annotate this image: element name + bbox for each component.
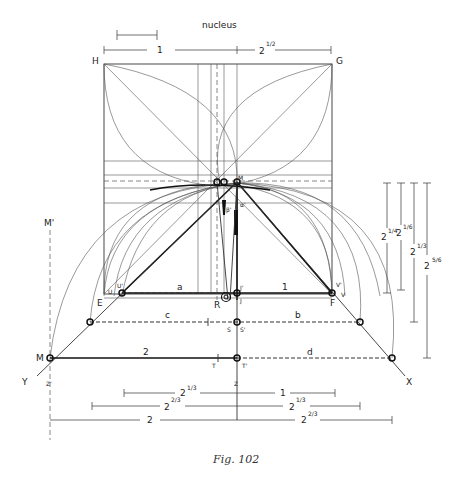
- segment-2-label: 2: [143, 347, 149, 357]
- label-M-left: M: [36, 353, 44, 363]
- label-T-prime: T': [241, 362, 248, 369]
- top-dimension: [104, 30, 331, 54]
- label-U: U: [108, 288, 112, 295]
- rdim-2-exp: 1/6: [403, 223, 413, 230]
- label-M-top: M: [238, 174, 243, 181]
- bdim-2-left-base: 2: [164, 402, 170, 412]
- bdim-3-right-base: 2: [301, 415, 307, 425]
- label-alpha-prime: α': [240, 201, 246, 208]
- rdim-4-exp: 5/6: [432, 256, 442, 263]
- segment-a-label: a: [177, 282, 183, 292]
- bottom-dimensions: [50, 389, 392, 424]
- dim-2-base: 2: [259, 46, 265, 56]
- line-Y: [37, 182, 237, 376]
- bdim-3-left-base: 2: [147, 415, 153, 425]
- label-beta-prime: β': [226, 206, 232, 214]
- square-frame: [104, 64, 332, 300]
- label-J: J: [239, 297, 242, 305]
- rdim-1-base: 2: [381, 232, 387, 242]
- label-S-prime: S': [240, 326, 246, 333]
- segment-d-label: d: [307, 347, 313, 357]
- segment-c-label: c: [165, 310, 170, 320]
- dim-1-label: 1: [157, 45, 163, 55]
- rdim-2-base: 2: [396, 228, 402, 238]
- nucleus-label: nucleus: [202, 20, 237, 30]
- construction-arcs: [50, 183, 394, 358]
- label-R: R: [214, 300, 220, 310]
- label-U-prime: U': [117, 282, 123, 289]
- rdim-3-base: 2: [410, 247, 416, 257]
- label-F: F: [330, 298, 335, 308]
- bdim-1-left-base: 2: [180, 388, 186, 398]
- label-T: T: [211, 362, 216, 369]
- rdim-3-exp: 1/3: [417, 242, 427, 249]
- label-V: V: [341, 291, 346, 298]
- geometric-construction-diagram: nucleus 1 2 1/2 H G: [0, 0, 459, 481]
- segment-1-label: 1: [282, 282, 288, 292]
- bdim-3-right-exp: 2/3: [308, 410, 318, 417]
- label-S: S: [227, 326, 231, 333]
- label-X: X: [406, 377, 412, 387]
- corner-G-label: G: [336, 56, 343, 66]
- label-J-prime: J': [239, 284, 244, 292]
- figure-caption: Fig. 102: [212, 453, 259, 466]
- main-triangle: [122, 182, 332, 300]
- label-Z: Z: [234, 380, 238, 387]
- bdim-2-left-exp: 2/3: [171, 396, 181, 403]
- bdim-1-left-exp: 1/3: [187, 384, 197, 391]
- dim-2-exp: 1/2: [266, 40, 276, 47]
- label-E: E: [97, 298, 103, 308]
- label-M-prime: M': [44, 218, 54, 228]
- label-V-prime: V': [336, 281, 342, 288]
- points: [47, 179, 395, 361]
- bdim-1-right-base: 1: [280, 388, 286, 398]
- label-Y: Y: [21, 377, 28, 387]
- corner-H-label: H: [92, 56, 99, 66]
- segment-b-label: b: [295, 310, 301, 320]
- label-Z-prime: Z': [46, 380, 52, 387]
- rdim-4-base: 2: [424, 261, 430, 271]
- bdim-2-right-exp: 1/3: [296, 396, 306, 403]
- bdim-2-right-base: 2: [289, 402, 295, 412]
